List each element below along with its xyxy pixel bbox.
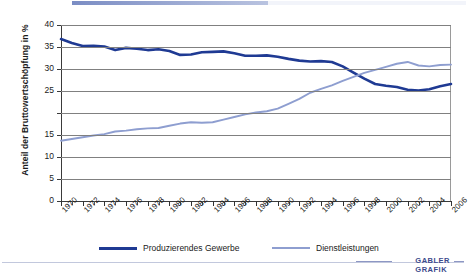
- top-accent-bar-tail: [268, 1, 466, 5]
- legend-label-produzierendes-gewerbe: Produzierendes Gewerbe: [143, 243, 239, 253]
- y-tick-label-35: 35: [30, 42, 54, 51]
- legend-item-produzierendes-gewerbe: Produzierendes Gewerbe: [99, 243, 239, 253]
- legend-item-dienstleistungen: Dienstleistungen: [272, 243, 379, 253]
- y-tick-mark-40: [57, 25, 61, 26]
- y-tick-label-10: 10: [30, 152, 54, 161]
- chart-legend: Produzierendes Gewerbe Dienstleistungen: [0, 243, 466, 261]
- y-tick-mark-30: [57, 69, 61, 70]
- y-tick-mark-5: [57, 179, 61, 180]
- footer-divider: [2, 262, 464, 263]
- y-tick-mark-10: [57, 157, 61, 158]
- y-tick-label-15: 15: [30, 130, 54, 139]
- brand-rule-right: [454, 261, 464, 262]
- gridline-y-15: [61, 135, 451, 136]
- y-tick-mark-25: [57, 91, 61, 92]
- gridline-y-20: [61, 113, 451, 114]
- gridline-y-25: [61, 91, 451, 92]
- gridline-y-5: [61, 179, 451, 180]
- series-line-dienstleistungen: [61, 62, 451, 141]
- y-tick-label-30: 30: [30, 64, 54, 73]
- gridline-y-30: [61, 69, 451, 70]
- y-axis-title: Anteil der Bruttowertschöpfung in %: [20, 5, 30, 195]
- y-tick-mark-35: [57, 47, 61, 48]
- gridline-y-10: [61, 157, 451, 158]
- y-tick-label-0: 0: [30, 196, 54, 205]
- y-tick-label-25: 25: [30, 86, 54, 95]
- brand-line-1: GABLER: [415, 256, 450, 265]
- x-tick-label-2006: 2006: [450, 195, 469, 214]
- y-tick-label-5: 5: [30, 174, 54, 183]
- top-accent-bar: [72, 1, 268, 5]
- legend-label-dienstleistungen: Dienstleistungen: [316, 243, 379, 253]
- y-tick-mark-15: [57, 135, 61, 136]
- gridline-y-35: [61, 47, 451, 48]
- y-tick-label-40: 40: [30, 20, 54, 29]
- y-tick-mark-20: [57, 113, 61, 114]
- brand-line-2: GRAFIK: [415, 265, 450, 274]
- plot-area: 1970197219741976197819801982198419861988…: [61, 25, 451, 201]
- gridline-y-40: [61, 25, 451, 26]
- legend-swatch-dienstleistungen: [272, 247, 310, 249]
- brand-rule-left: [356, 261, 392, 262]
- brand-logo: GABLER GRAFIK: [415, 256, 450, 274]
- legend-swatch-produzierendes-gewerbe: [99, 247, 137, 250]
